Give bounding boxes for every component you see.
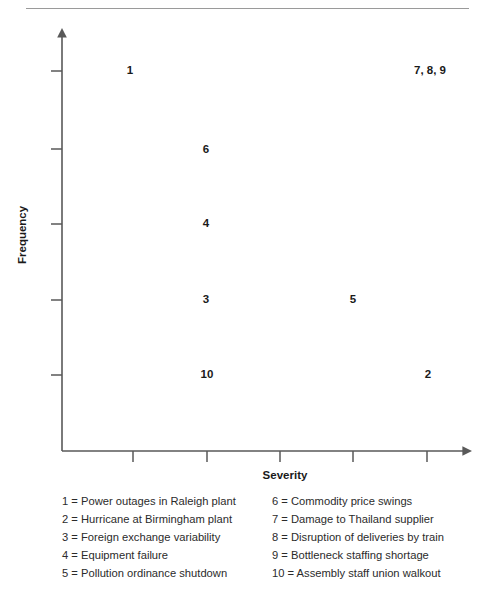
data-point-label: 3 bbox=[203, 294, 209, 306]
legend-item: 2 = Hurricane at Birmingham plant bbox=[62, 510, 272, 528]
x-axis-title: Severity bbox=[225, 469, 345, 481]
legend-item: 10 = Assembly staff union walkout bbox=[272, 564, 487, 582]
data-point-label: 1 bbox=[127, 65, 133, 77]
legend-item: 6 = Commodity price swings bbox=[272, 492, 487, 510]
data-point-label: 6 bbox=[203, 144, 209, 156]
legend-item: 1 = Power outages in Raleigh plant bbox=[62, 492, 272, 510]
data-point-label: 2 bbox=[425, 369, 431, 381]
data-point-label: 4 bbox=[203, 218, 209, 230]
data-point-label: 10 bbox=[201, 369, 214, 381]
risk-legend: 1 = Power outages in Raleigh plant 2 = H… bbox=[0, 492, 491, 590]
legend-item: 8 = Disruption of deliveries by train bbox=[272, 528, 487, 546]
y-axis-title: Frequency bbox=[16, 212, 28, 264]
legend-item: 4 = Equipment failure bbox=[62, 546, 272, 564]
legend-item: 5 = Pollution ordinance shutdown bbox=[62, 564, 272, 582]
legend-column-right: 6 = Commodity price swings 7 = Damage to… bbox=[272, 492, 487, 582]
data-point-label: 5 bbox=[350, 294, 356, 306]
risk-map-figure: Frequency Severity 1 7, 8, 9 6 4 3 5 10 … bbox=[0, 0, 491, 590]
legend-item: 9 = Bottleneck staffing shortage bbox=[272, 546, 487, 564]
data-point-label: 7, 8, 9 bbox=[414, 65, 446, 77]
legend-item: 7 = Damage to Thailand supplier bbox=[272, 510, 487, 528]
legend-column-left: 1 = Power outages in Raleigh plant 2 = H… bbox=[62, 492, 272, 582]
legend-item: 3 = Foreign exchange variability bbox=[62, 528, 272, 546]
